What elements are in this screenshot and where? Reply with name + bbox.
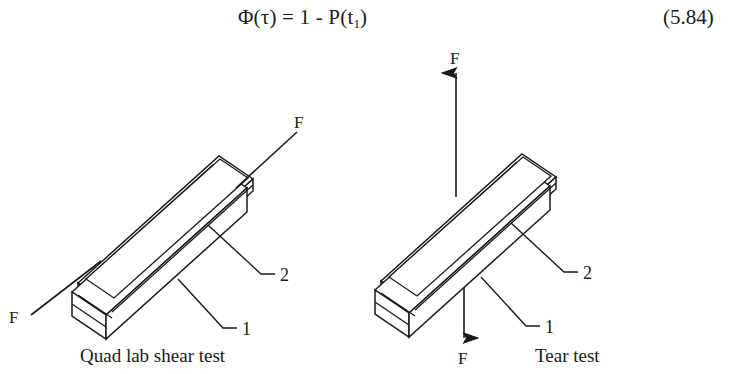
equation-row: Φ(τ) = 1 - P(t1) (5.84) bbox=[0, 0, 756, 42]
equation-closing-paren: ) bbox=[360, 5, 367, 29]
force-label-lower-left: F bbox=[9, 308, 18, 327]
force-indicator-top: F bbox=[450, 49, 459, 197]
caption-quad-lab-shear-test: Quad lab shear test bbox=[80, 345, 226, 366]
callout-1-right: 1 bbox=[545, 317, 554, 337]
figure-diagrams: F bbox=[0, 42, 756, 374]
force-label-bottom: F bbox=[458, 349, 467, 368]
equation-number: (5.84) bbox=[663, 3, 714, 31]
caption-tear-test: Tear test bbox=[535, 345, 600, 366]
diagram-tear-test: F F bbox=[375, 49, 600, 368]
specimen-block-right bbox=[375, 154, 556, 337]
equation-expression: Φ(τ) = 1 - P(t1) bbox=[238, 3, 367, 38]
callout-2-right: 2 bbox=[583, 263, 592, 283]
diagram-quad-lab-shear-test: F bbox=[9, 113, 303, 366]
callout-leader-1-left: 1 bbox=[178, 279, 251, 339]
equation-lhs: Φ(τ) = 1 - P(t bbox=[238, 5, 353, 29]
figure-page: Φ(τ) = 1 - P(t1) (5.84) F bbox=[0, 0, 756, 374]
callout-2-left: 2 bbox=[280, 265, 289, 285]
force-label-top: F bbox=[450, 49, 459, 68]
callout-leader-1-right: 1 bbox=[481, 277, 554, 337]
specimen-block-left bbox=[72, 156, 253, 339]
figure-canvas: F bbox=[0, 42, 756, 374]
callout-1-left: 1 bbox=[242, 319, 251, 339]
force-label-upper-right: F bbox=[294, 113, 303, 132]
